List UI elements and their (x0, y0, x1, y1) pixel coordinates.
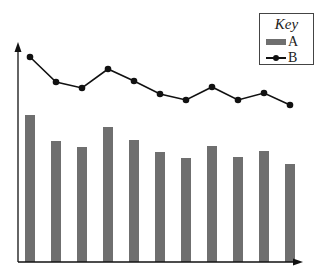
bar (181, 158, 191, 262)
bar (129, 140, 139, 262)
legend-item-a: A (266, 34, 298, 50)
line-marker-swatch-icon (266, 53, 286, 63)
bar-swatch-icon (266, 39, 286, 45)
legend-label-b: B (288, 50, 297, 66)
line-marker (183, 97, 190, 104)
bar (207, 146, 217, 262)
bar (233, 157, 243, 262)
line-marker (131, 78, 138, 85)
line-marker (105, 66, 112, 73)
y-axis-arrow-icon (15, 42, 22, 52)
line-marker (157, 91, 164, 98)
bar (51, 141, 61, 262)
bar (285, 164, 295, 262)
line-marker (235, 97, 242, 104)
bar (77, 147, 87, 262)
legend-title: Key (260, 16, 313, 33)
legend: Key A B (259, 13, 314, 65)
line-marker (27, 54, 34, 61)
series-b-line (27, 54, 294, 109)
line-path (30, 57, 290, 105)
line-marker (53, 79, 60, 86)
line-marker (287, 102, 294, 109)
bar (155, 152, 165, 262)
line-marker (79, 85, 86, 92)
legend-item-b: B (266, 50, 297, 66)
legend-label-a: A (288, 34, 298, 50)
line-marker (261, 90, 268, 97)
line-marker (209, 84, 216, 91)
x-axis-arrow-icon (293, 259, 303, 266)
bar (259, 151, 269, 262)
bar (103, 127, 113, 262)
series-a-bars (25, 115, 295, 262)
bar (25, 115, 35, 262)
